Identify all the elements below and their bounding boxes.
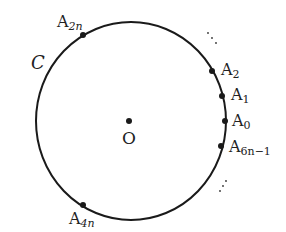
- center-label: O: [122, 128, 136, 148]
- label-a2n: A2n: [56, 12, 83, 33]
- point-a4n: [80, 202, 86, 208]
- label-a0: A0: [231, 111, 251, 132]
- circle-label: C: [31, 52, 45, 73]
- center-point: [126, 118, 132, 124]
- point-a6n-1: [218, 143, 224, 149]
- point-a1: [219, 93, 225, 99]
- ellipsis-bottom: [219, 180, 227, 192]
- ellipsis-top: [207, 32, 217, 44]
- label-a4n: A4n: [68, 209, 95, 230]
- label-a2: A2: [220, 60, 240, 81]
- circle-diagram: O C A2n A2 A1 A0 A6n−1 A4n: [0, 0, 286, 232]
- point-a0: [222, 118, 228, 124]
- label-a6n-1: A6n−1: [228, 137, 271, 158]
- label-a1: A1: [230, 85, 250, 106]
- point-a2: [209, 68, 215, 74]
